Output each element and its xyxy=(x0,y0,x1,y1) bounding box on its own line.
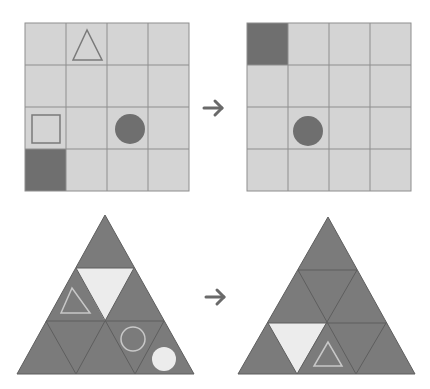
filled-cell xyxy=(25,149,66,191)
circle-filled-icon xyxy=(293,116,323,146)
filled-cell xyxy=(247,23,288,65)
circle-filled-icon xyxy=(115,114,145,144)
circle-filled-light-icon xyxy=(152,347,176,371)
grid-before xyxy=(0,0,215,200)
triangle-before xyxy=(0,200,215,389)
triangle-after xyxy=(215,200,430,389)
grid-after xyxy=(215,0,430,200)
